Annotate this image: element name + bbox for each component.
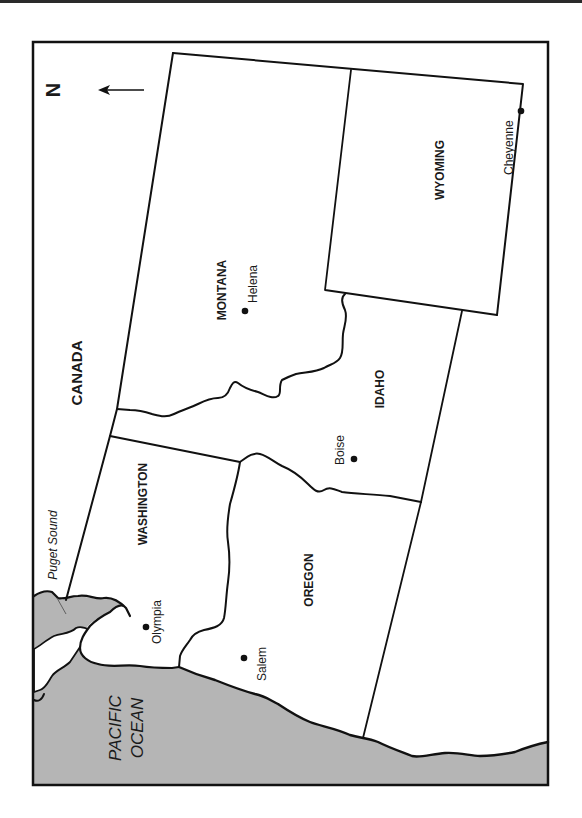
washington-idaho-border bbox=[110, 436, 240, 462]
idaho-wyoming-border bbox=[421, 311, 462, 502]
label-idaho: IDAHO bbox=[373, 370, 387, 409]
montana-wyoming-border bbox=[325, 70, 497, 315]
capital-dot-icon bbox=[242, 308, 249, 315]
label-washington: WASHINGTON bbox=[136, 463, 150, 545]
capital-boise: Boise bbox=[333, 435, 357, 465]
label-oregon: OREGON bbox=[302, 553, 316, 606]
map-canvas: N CANADA MONTANA WYOMING IDAHO WASHINGTO… bbox=[0, 0, 582, 818]
capital-dot-icon bbox=[143, 624, 150, 631]
label-puget-sound: Puget Sound bbox=[46, 510, 60, 580]
scan-edge-top bbox=[0, 0, 582, 3]
idaho-oregon-border bbox=[240, 454, 421, 502]
capital-dot-icon bbox=[351, 456, 358, 463]
oregon-east-border bbox=[363, 502, 421, 738]
washington-oregon-border bbox=[179, 462, 240, 667]
label-ocean: OCEAN bbox=[128, 697, 147, 758]
capital-dot-icon bbox=[241, 655, 248, 662]
compass-north-letter: N bbox=[42, 83, 64, 97]
label-wyoming: WYOMING bbox=[433, 140, 447, 200]
canada-us-border bbox=[66, 53, 173, 600]
capital-label-helena: Helena bbox=[246, 265, 260, 303]
compass: N bbox=[42, 83, 144, 97]
label-pacific: PACIFIC bbox=[106, 694, 125, 761]
montana-idaho-border bbox=[117, 294, 346, 416]
capital-cheyenne: Cheyenne bbox=[502, 108, 524, 175]
label-canada: CANADA bbox=[68, 340, 85, 405]
capital-dot-icon bbox=[518, 108, 525, 115]
capital-label-cheyenne: Cheyenne bbox=[502, 120, 516, 175]
capital-label-olympia: Olympia bbox=[150, 600, 164, 644]
capital-label-salem: Salem bbox=[255, 647, 269, 681]
label-montana: MONTANA bbox=[215, 259, 229, 320]
capital-helena: Helena bbox=[242, 265, 260, 315]
capital-salem: Salem bbox=[241, 647, 269, 681]
capital-label-boise: Boise bbox=[333, 435, 347, 465]
